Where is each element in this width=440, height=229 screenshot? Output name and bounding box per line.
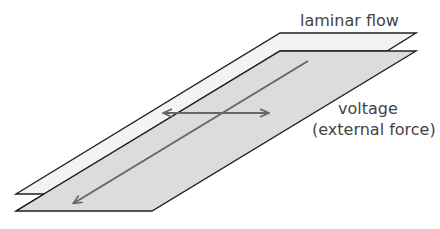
- external-force-label: (external force): [312, 120, 436, 139]
- laminar-flow-label: laminar flow: [300, 11, 399, 30]
- laminar-flow-diagram: laminar flow voltage (external force): [0, 0, 440, 229]
- voltage-label: voltage: [338, 99, 398, 118]
